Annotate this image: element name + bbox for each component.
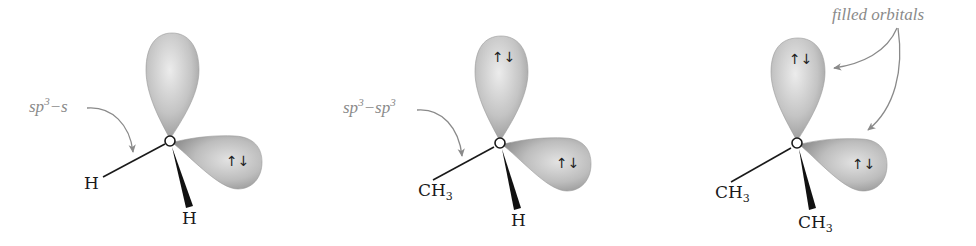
left-substituent-label: CH3 bbox=[715, 182, 750, 205]
oxygen-atom bbox=[495, 138, 505, 148]
panel-water: ↑↓ H H sp3−s bbox=[29, 33, 262, 228]
bond-left bbox=[433, 147, 494, 180]
bond-left bbox=[103, 144, 165, 177]
wedge-substituent-label: CH3 bbox=[798, 212, 833, 235]
wedge-bond bbox=[799, 149, 816, 210]
spin-pair-right: ↑↓ bbox=[556, 155, 579, 171]
oxygen-atom bbox=[792, 138, 802, 148]
wedge-substituent-label: H bbox=[511, 210, 526, 230]
spin-pair-upper: ↑↓ bbox=[789, 51, 812, 67]
filled-orbitals-annotation: filled orbitals bbox=[832, 5, 924, 24]
upper-orbital-lobe bbox=[146, 33, 199, 139]
oxygen-atom bbox=[165, 136, 175, 146]
bond-type-annotation: sp3−sp3 bbox=[343, 96, 396, 117]
spin-pair-right: ↑↓ bbox=[226, 153, 249, 169]
spin-pair-upper: ↑↓ bbox=[492, 49, 515, 65]
annotation-arrow bbox=[87, 108, 133, 152]
bond-left bbox=[731, 148, 791, 182]
spin-pair-right: ↑↓ bbox=[852, 156, 875, 172]
annotation-arrow bbox=[417, 110, 462, 156]
annotation-arrow-upper bbox=[834, 28, 897, 68]
left-substituent-label: CH3 bbox=[418, 180, 453, 203]
left-substituent-label: H bbox=[84, 173, 99, 193]
annotation-arrow-lower bbox=[868, 28, 900, 130]
panel-methanol: ↑↓ ↑↓ CH3 H sp3−sp3 bbox=[343, 36, 591, 230]
bond-type-annotation: sp3−s bbox=[29, 95, 68, 116]
wedge-substituent-label: H bbox=[182, 208, 197, 228]
orbital-diagram: ↑↓ H H sp3−s ↑↓ ↑↓ CH3 H bbox=[0, 0, 976, 246]
panel-dimethyl-ether: ↑↓ ↑↓ CH3 CH3 filled orbitals bbox=[715, 5, 924, 235]
